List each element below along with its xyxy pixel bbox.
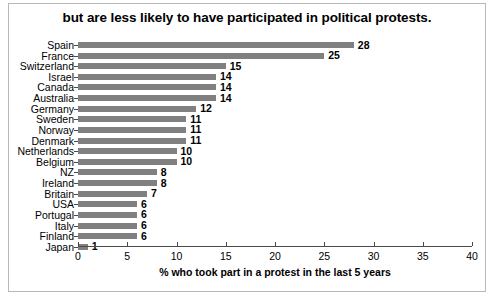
bar <box>78 127 186 133</box>
bar <box>78 233 137 239</box>
bar-value-label: 7 <box>151 188 157 199</box>
bar-value-label: 6 <box>141 231 147 242</box>
bar-value-label: 10 <box>181 156 193 167</box>
x-axis-tick <box>78 242 79 246</box>
bar <box>78 53 324 59</box>
bar-row: Spain28 <box>0 40 491 51</box>
x-axis-line <box>78 246 472 247</box>
bar <box>78 74 216 80</box>
bar <box>78 191 147 197</box>
bar-value-label: 11 <box>190 135 201 146</box>
bar <box>78 42 354 48</box>
x-axis-tick <box>423 242 424 246</box>
bar <box>78 148 177 154</box>
bar <box>78 169 157 175</box>
x-axis-tick-label: 30 <box>359 250 389 262</box>
x-axis-tick <box>324 242 325 246</box>
bar-value-label: 14 <box>220 82 232 93</box>
x-axis-title: % who took part in a protest in the last… <box>78 266 472 278</box>
x-axis-tick <box>472 242 473 246</box>
x-axis-tick-label: 0 <box>63 250 93 262</box>
bar <box>78 95 216 101</box>
bar-value-label: 25 <box>328 50 340 61</box>
bar-value-label: 8 <box>161 178 167 189</box>
x-axis-tick-label: 25 <box>309 250 339 262</box>
bar <box>78 180 157 186</box>
x-axis-tick <box>127 242 128 246</box>
bar <box>78 212 137 218</box>
bar <box>78 201 137 207</box>
x-axis-tick <box>374 242 375 246</box>
bar-value-label: 12 <box>200 103 212 114</box>
x-axis-tick-label: 20 <box>260 250 290 262</box>
bar <box>78 84 216 90</box>
x-axis-tick-label: 15 <box>211 250 241 262</box>
category-label: Norway <box>0 125 74 136</box>
x-axis-tick-label: 35 <box>408 250 438 262</box>
plot-area: Spain28France25Switzerland15Israel14Cana… <box>0 0 491 299</box>
x-axis-tick <box>226 242 227 246</box>
bar <box>78 159 177 165</box>
x-axis-tick-label: 40 <box>457 250 487 262</box>
bar-value-label: 14 <box>220 93 232 104</box>
bar <box>78 116 186 122</box>
bar <box>78 223 137 229</box>
bar <box>78 63 226 69</box>
x-axis-tick <box>177 242 178 246</box>
x-axis-tick-label: 10 <box>162 250 192 262</box>
x-axis-tick-label: 5 <box>112 250 142 262</box>
bar-row: Portugal6 <box>0 210 491 221</box>
bar-row: Norway11 <box>0 125 491 136</box>
bar <box>78 106 196 112</box>
bar-value-label: 8 <box>161 167 167 178</box>
x-axis-tick <box>275 242 276 246</box>
category-label: Spain <box>0 40 74 51</box>
chart-figure: but are less likely to have participated… <box>0 0 491 299</box>
bar <box>78 138 186 144</box>
bar-value-label: 28 <box>358 40 370 51</box>
category-label: Portugal <box>0 210 74 221</box>
